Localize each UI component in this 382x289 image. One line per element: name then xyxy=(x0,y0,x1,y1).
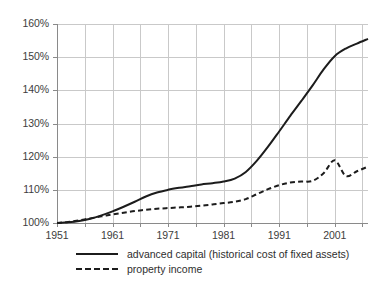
line-chart: 100%110%120%130%140%150%160% 19511961197… xyxy=(0,0,382,289)
x-tick-label: 1951 xyxy=(37,229,77,241)
y-tick-label: 140% xyxy=(5,83,49,95)
x-tick-label: 1961 xyxy=(93,229,133,241)
y-tick-label: 110% xyxy=(5,183,49,195)
legend-line-swatch-solid xyxy=(74,249,120,259)
y-tick-label: 160% xyxy=(5,17,49,29)
y-tick-label: 120% xyxy=(5,150,49,162)
legend-line-swatch-dashed xyxy=(74,264,120,274)
chart-legend: advanced capital (historical cost of fix… xyxy=(74,246,374,276)
gridlines xyxy=(57,24,368,224)
x-tick-label: 1971 xyxy=(148,229,188,241)
legend-label: property income xyxy=(120,263,202,275)
series-line-advanced-capital xyxy=(57,39,368,223)
axes xyxy=(57,24,368,224)
y-tick-label: 100% xyxy=(5,216,49,228)
y-tick-label: 130% xyxy=(5,117,49,129)
legend-label: advanced capital (historical cost of fix… xyxy=(120,248,349,260)
y-tick-label: 150% xyxy=(5,50,49,62)
x-tick-label: 1981 xyxy=(204,229,244,241)
x-tick-label: 1991 xyxy=(259,229,299,241)
tick-marks xyxy=(53,25,363,228)
legend-item-property-income: property income xyxy=(74,261,374,276)
legend-item-advanced-capital: advanced capital (historical cost of fix… xyxy=(74,246,374,261)
data-series xyxy=(57,39,368,223)
x-tick-label: 2001 xyxy=(315,229,355,241)
